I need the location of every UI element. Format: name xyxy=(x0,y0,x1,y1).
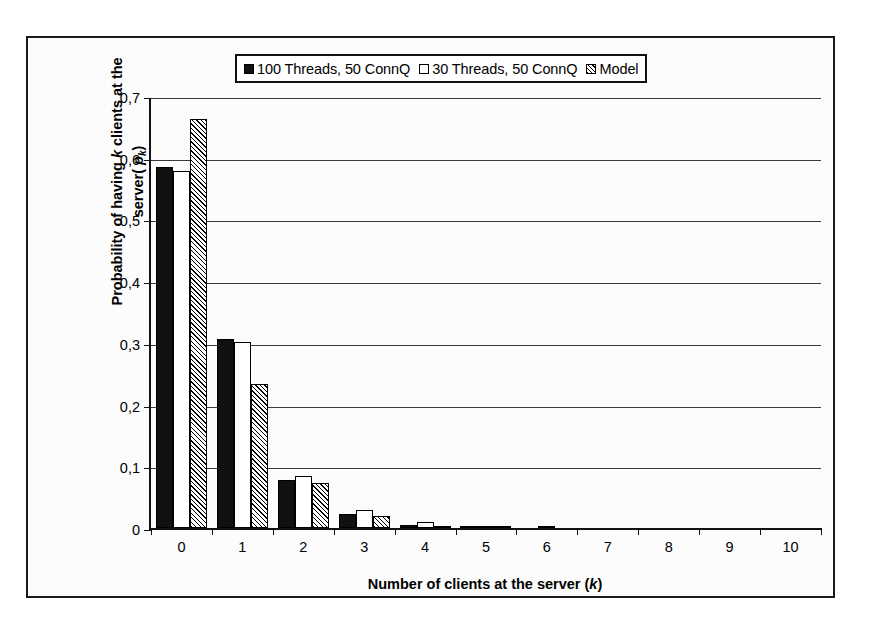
bar-group xyxy=(212,98,273,528)
x-tick-mark xyxy=(760,528,761,535)
bar-group xyxy=(699,98,760,528)
y-tick-mark xyxy=(144,98,151,99)
bars-layer xyxy=(151,98,821,528)
legend-label-100-threads: 100 Threads, 50 ConnQ xyxy=(257,61,410,77)
x-tick-mark xyxy=(456,528,457,535)
legend-entry-100-threads: 100 Threads, 50 ConnQ xyxy=(244,60,410,77)
legend-swatch-solid-icon xyxy=(244,64,254,74)
x-tick-mark xyxy=(334,528,335,535)
bar xyxy=(339,514,356,528)
x-tick-mark xyxy=(516,528,517,535)
bar xyxy=(312,483,329,528)
y-axis-title-part-server: server( xyxy=(130,165,146,217)
legend-label-model: Model xyxy=(599,61,638,77)
legend-entry-model: Model xyxy=(586,60,638,77)
y-axis-title: Probability of having k clients at the s… xyxy=(107,16,154,346)
x-tick-label: 8 xyxy=(665,539,673,555)
bar xyxy=(373,516,390,528)
x-axis-title-part-pre: Number of clients at the server ( xyxy=(368,576,590,592)
legend-swatch-hatch-icon xyxy=(586,64,596,74)
legend-label-30-threads: 30 Threads, 50 ConnQ xyxy=(432,61,577,77)
legend-swatch-open-icon xyxy=(419,64,429,74)
bar xyxy=(217,339,234,528)
x-tick-label: 0 xyxy=(177,539,185,555)
bar-group xyxy=(273,98,334,528)
y-tick-label: 0,5 xyxy=(120,213,140,229)
bar-group xyxy=(516,98,577,528)
y-tick-mark xyxy=(144,468,151,469)
bar xyxy=(173,171,190,528)
bar xyxy=(477,526,494,528)
bar-group xyxy=(395,98,456,528)
y-tick-label: 0,2 xyxy=(120,399,140,415)
x-tick-mark xyxy=(821,528,822,535)
x-tick-mark xyxy=(395,528,396,535)
y-tick-label: 0,7 xyxy=(120,90,140,106)
legend-entry-30-threads: 30 Threads, 50 ConnQ xyxy=(419,60,577,77)
y-tick-mark xyxy=(144,345,151,346)
y-tick-label: 0,6 xyxy=(120,152,140,168)
x-tick-label: 9 xyxy=(726,539,734,555)
bar xyxy=(494,526,511,528)
x-tick-mark xyxy=(212,528,213,535)
x-tick-label: 4 xyxy=(421,539,429,555)
y-tick-mark xyxy=(144,407,151,408)
bar xyxy=(295,476,312,528)
bar xyxy=(400,525,417,528)
figure-frame: 100 Threads, 50 ConnQ 30 Threads, 50 Con… xyxy=(26,36,835,598)
bar-group xyxy=(638,98,699,528)
x-tick-mark xyxy=(151,528,152,535)
x-tick-mark xyxy=(273,528,274,535)
x-tick-label: 1 xyxy=(238,539,246,555)
y-tick-label: 0 xyxy=(132,522,140,538)
y-tick-mark xyxy=(144,283,151,284)
x-tick-label: 6 xyxy=(543,539,551,555)
y-tick-label: 0,3 xyxy=(120,337,140,353)
x-tick-label: 2 xyxy=(299,539,307,555)
bar-group xyxy=(334,98,395,528)
bar xyxy=(251,384,268,528)
chart-legend: 100 Threads, 50 ConnQ 30 Threads, 50 Con… xyxy=(235,54,647,83)
bar xyxy=(460,526,477,528)
y-tick-label: 0,4 xyxy=(120,275,140,291)
x-tick-label: 10 xyxy=(782,539,798,555)
y-tick-mark xyxy=(144,530,151,531)
x-tick-label: 7 xyxy=(604,539,612,555)
bar-group xyxy=(151,98,212,528)
y-axis-title-part-close: ) xyxy=(130,146,146,151)
x-tick-label: 5 xyxy=(482,539,490,555)
bar xyxy=(156,167,173,528)
x-tick-label: 3 xyxy=(360,539,368,555)
bar xyxy=(356,510,373,528)
bar xyxy=(434,526,451,528)
bar xyxy=(234,342,251,528)
plot-area: 00,10,20,30,40,50,60,7 012345678910 xyxy=(149,98,821,530)
y-tick-label: 0,1 xyxy=(120,460,140,476)
bar-group xyxy=(760,98,821,528)
bar-group xyxy=(456,98,517,528)
bar-group xyxy=(577,98,638,528)
x-tick-mark xyxy=(577,528,578,535)
bar xyxy=(417,522,434,528)
bar xyxy=(538,526,555,528)
y-tick-mark xyxy=(144,160,151,161)
y-tick-mark xyxy=(144,221,151,222)
x-axis-title: Number of clients at the server (k) xyxy=(149,576,821,592)
bar xyxy=(278,480,295,528)
bar xyxy=(190,119,207,528)
x-axis-title-part-post: ) xyxy=(597,576,602,592)
x-tick-mark xyxy=(638,528,639,535)
x-tick-mark xyxy=(699,528,700,535)
